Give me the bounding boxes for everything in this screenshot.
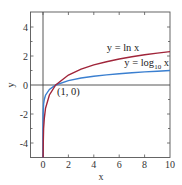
svg-text:0: 0 xyxy=(41,159,46,170)
point-label: (1, 0) xyxy=(57,86,80,98)
y-tick-labels: 4 2 0 -2 -4 xyxy=(20,22,28,149)
svg-text:2: 2 xyxy=(23,51,28,62)
ln-curve-label: y = ln x xyxy=(107,42,140,53)
svg-text:0: 0 xyxy=(23,80,28,91)
chart: 0 2 4 6 8 10 4 2 0 -2 -4 x y y = ln x y … xyxy=(0,0,182,185)
y-axis-label: y xyxy=(5,83,16,88)
svg-text:10: 10 xyxy=(165,159,175,170)
x-axis-label: x xyxy=(99,171,104,182)
svg-text:2: 2 xyxy=(66,159,71,170)
svg-text:4: 4 xyxy=(91,159,96,170)
log10-curve-label: y = log10 x xyxy=(124,57,169,71)
svg-text:4: 4 xyxy=(23,22,28,33)
svg-text:-4: -4 xyxy=(20,138,28,149)
svg-text:-2: -2 xyxy=(20,109,28,120)
x-tick-labels: 0 2 4 6 8 10 xyxy=(41,159,176,170)
svg-text:6: 6 xyxy=(117,159,122,170)
svg-text:8: 8 xyxy=(142,159,147,170)
log10-curve xyxy=(43,71,170,158)
